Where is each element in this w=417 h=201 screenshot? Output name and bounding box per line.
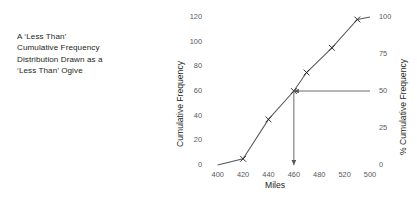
caption-line-2: Cumulative Frequency [17,42,137,53]
data-point-marker [329,45,335,51]
chart-plot-area: 020406080100120 0255075100 4004204404604… [196,4,382,180]
y-axis-left-tick-label: 0 [182,160,202,169]
x-axis-tick-label: 420 [231,170,255,179]
x-axis-tick-label: 460 [282,170,306,179]
y-axis-right-tick-label: 75 [379,49,399,58]
caption-line-4: ‘Less Than’ Ogive [17,65,137,76]
ogive-figure: A ‘Less Than’ Cumulative Frequency Distr… [0,0,417,201]
y-axis-left-tick-label: 60 [182,86,202,95]
x-axis-title: Miles [233,180,317,190]
y-axis-left-tick-label: 120 [182,12,202,21]
data-point-marker [266,116,272,122]
x-axis-tick-label: 500 [358,170,382,179]
ogive-curve-svg [196,4,382,180]
y-axis-left-tick-label: 20 [182,135,202,144]
y-axis-right-tick-label: 100 [379,12,399,21]
y-axis-left-tick-label: 80 [182,61,202,70]
y-axis-left-title: Cumulative Frequency [175,61,185,147]
x-axis-tick-label: 400 [206,170,230,179]
y-axis-right-tick-label: 50 [379,86,399,95]
figure-caption: A ‘Less Than’ Cumulative Frequency Distr… [17,31,137,77]
y-axis-left-tick-label: 40 [182,111,202,120]
y-axis-right-title: % Cumulative Frequency [398,59,408,155]
caption-line-3: Distribution Drawn as a [17,54,137,65]
y-axis-left-tick-label: 100 [182,37,202,46]
data-point-marker [304,70,310,76]
ogive-data-markers [240,17,360,162]
median-annotation-arrows [294,91,370,165]
caption-line-1: A ‘Less Than’ [17,31,137,42]
x-axis-tick-label: 480 [307,170,331,179]
x-axis-tick-label: 520 [333,170,357,179]
y-axis-right-tick-label: 0 [379,160,399,169]
y-axis-right-tick-label: 25 [379,123,399,132]
x-axis-tick-label: 440 [256,170,280,179]
